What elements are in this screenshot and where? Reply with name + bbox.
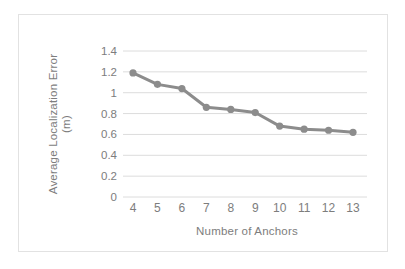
y-tick-label: 0.8 bbox=[101, 108, 117, 120]
x-tick-label: 13 bbox=[346, 201, 359, 215]
y-axis-title-line-1: Average Localization Error bbox=[47, 54, 60, 195]
x-tick-label: 6 bbox=[179, 201, 186, 215]
y-tick-label: 1 bbox=[111, 87, 117, 99]
x-tick-label: 11 bbox=[298, 201, 310, 215]
y-tick-label: 0 bbox=[111, 191, 117, 203]
x-tick-label: 4 bbox=[130, 201, 137, 215]
plot-area bbox=[123, 29, 371, 219]
data-point-marker bbox=[325, 127, 332, 134]
data-point-marker bbox=[276, 122, 283, 129]
y-tick-label: 1.2 bbox=[101, 66, 117, 78]
data-point-marker bbox=[349, 129, 356, 136]
y-tick-label: 0.6 bbox=[101, 128, 117, 140]
x-tick-label: 9 bbox=[252, 201, 259, 215]
x-tick-label: 10 bbox=[273, 201, 286, 215]
data-point-marker bbox=[129, 69, 136, 76]
x-axis-title: Number of Anchors bbox=[123, 225, 371, 237]
data-point-marker bbox=[203, 104, 210, 111]
y-axis-tick-labels: 00.20.40.60.811.21.4 bbox=[79, 29, 121, 219]
data-point-marker bbox=[227, 106, 234, 113]
x-tick-label: 5 bbox=[154, 201, 161, 215]
y-tick-label: 0.4 bbox=[101, 149, 117, 161]
data-point-marker bbox=[178, 85, 185, 92]
data-point-marker bbox=[154, 81, 161, 88]
x-tick-label: 8 bbox=[227, 201, 234, 215]
chart-figure-frame: Average Localization Error (m) 00.20.40.… bbox=[18, 14, 388, 252]
line-chart-svg bbox=[123, 29, 371, 219]
y-axis-title: Average Localization Error (m) bbox=[41, 29, 79, 219]
y-tick-label: 1.4 bbox=[101, 45, 117, 57]
x-tick-label: 12 bbox=[322, 201, 335, 215]
data-point-marker bbox=[301, 126, 308, 133]
data-series-line bbox=[133, 73, 353, 132]
y-axis-title-line-2: (m) bbox=[60, 54, 73, 195]
x-tick-label: 7 bbox=[203, 201, 210, 215]
x-axis-tick-labels: 45678910111213 bbox=[123, 201, 371, 223]
y-tick-label: 0.2 bbox=[101, 170, 117, 182]
data-point-marker bbox=[252, 109, 259, 116]
